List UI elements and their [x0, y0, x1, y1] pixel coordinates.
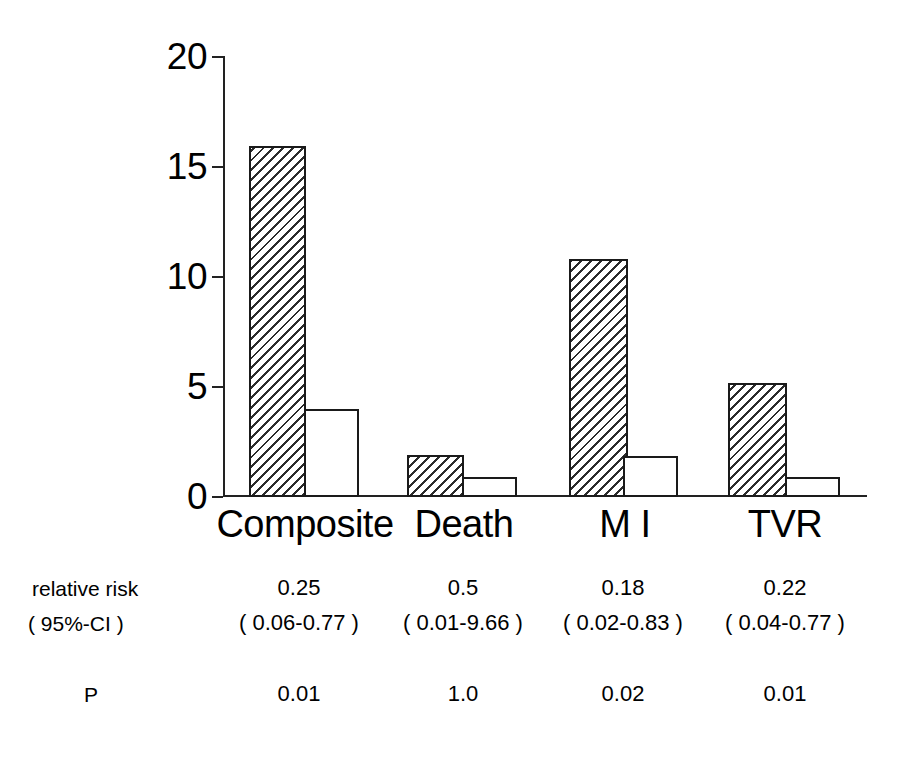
bar-composite-treatment [249, 146, 306, 497]
bar-composite-control [304, 409, 359, 497]
x-category-label-death: Death [415, 505, 514, 543]
plot-area: 20 15 10 5 0 [223, 56, 867, 497]
y-tick-label: 5 [187, 368, 207, 405]
y-tick-mark [212, 496, 223, 498]
cell-relative-risk-composite: 0.25 [278, 577, 321, 599]
y-tick-label: 10 [167, 258, 207, 295]
cell-p-composite: 0.01 [278, 683, 321, 705]
cell-relative-risk-mi: 0.18 [602, 577, 645, 599]
row-label-p-value: P [84, 684, 98, 705]
table-row-confidence-interval: ( 95%-CI ) ( 0.06-0.77 ) ( 0.01-9.66 ) (… [0, 602, 904, 632]
table-row-relative-risk: relative risk 0.25 0.5 0.18 0.22 [0, 572, 904, 602]
table-row-p-value: P 0.01 1.0 0.02 0.01 [0, 632, 904, 682]
bar-tvr-control [785, 477, 840, 497]
y-tick-mark [212, 386, 223, 388]
x-category-label-tvr: TVR [748, 505, 823, 543]
cell-p-mi: 0.02 [602, 683, 645, 705]
cell-ci-composite: ( 0.06-0.77 ) [239, 612, 359, 634]
bar-death-treatment [407, 455, 464, 497]
cell-p-tvr: 0.01 [764, 683, 807, 705]
y-tick-label: 15 [167, 148, 207, 185]
cell-relative-risk-tvr: 0.22 [764, 577, 807, 599]
cell-ci-death: ( 0.01-9.66 ) [403, 612, 523, 634]
x-category-label-composite: Composite [216, 505, 393, 543]
bar-mi-treatment [569, 259, 628, 497]
cell-ci-mi: ( 0.02-0.83 ) [563, 612, 683, 634]
bar-chart-figure: 20 15 10 5 0 Composite Death M I TVR [0, 0, 904, 762]
cell-relative-risk-death: 0.5 [448, 577, 479, 599]
row-label-relative-risk: relative risk [32, 578, 138, 599]
y-tick-mark [212, 56, 223, 58]
y-tick-label: 0 [187, 478, 207, 515]
bar-mi-control [623, 456, 678, 497]
x-category-label-mi: M I [599, 505, 650, 543]
y-axis-line [223, 56, 225, 497]
y-tick-mark [212, 276, 223, 278]
y-tick-label: 20 [167, 38, 207, 75]
cell-ci-tvr: ( 0.04-0.77 ) [725, 612, 845, 634]
bar-tvr-treatment [728, 383, 787, 497]
y-tick-mark [212, 166, 223, 168]
bar-death-control [462, 477, 517, 497]
row-label-confidence-interval: ( 95%-CI ) [28, 613, 124, 634]
statistics-table: relative risk 0.25 0.5 0.18 0.22 ( 95%-C… [0, 572, 904, 682]
cell-p-death: 1.0 [448, 683, 479, 705]
